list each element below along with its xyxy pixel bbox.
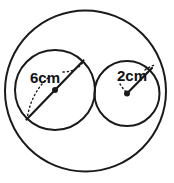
outer-circle (5, 11, 166, 172)
geometry-canvas: 6cm 2cm (0, 0, 174, 183)
measurement-large-circle-diameter: 6cm (27, 61, 84, 120)
center-dot-large (52, 87, 58, 93)
geometry-figure: 6cm 2cm (0, 0, 174, 183)
label-large-circle-diameter: 6cm (30, 69, 60, 86)
label-small-circle-radius: 2cm (117, 67, 147, 84)
center-dot-small (124, 91, 130, 97)
